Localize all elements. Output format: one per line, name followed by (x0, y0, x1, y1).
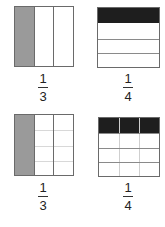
divider-line (98, 39, 159, 40)
grid-line (139, 118, 140, 176)
divider-line (53, 115, 54, 175)
divider-line (99, 148, 159, 149)
denominator: 4 (116, 90, 140, 103)
fourths-grid-box (98, 117, 160, 177)
thirds-grid-box (14, 114, 74, 176)
shaded-fourth (99, 118, 159, 133)
fourths-strip-box (97, 7, 160, 68)
grid-line (119, 118, 120, 176)
fraction-bar (123, 87, 133, 88)
divider-line (99, 162, 159, 163)
denominator: 3 (31, 90, 55, 103)
fraction-label: 1 3 (31, 181, 55, 212)
numerator: 1 (116, 72, 140, 85)
numerator: 1 (31, 72, 55, 85)
divider-line (34, 7, 35, 66)
divider-line (98, 53, 159, 54)
thirds-strip-box (14, 6, 74, 67)
fraction-bar (38, 87, 48, 88)
fraction-label: 1 4 (116, 72, 140, 103)
fraction-label: 1 3 (31, 72, 55, 103)
numerator: 1 (31, 181, 55, 194)
denominator: 3 (31, 199, 55, 212)
divider-line (53, 7, 54, 66)
shaded-third (15, 7, 35, 66)
fraction-bar (123, 196, 133, 197)
fraction-bar (38, 196, 48, 197)
shaded-fourth (98, 8, 159, 23)
numerator: 1 (116, 181, 140, 194)
shaded-third (15, 115, 35, 175)
divider-line (99, 133, 159, 134)
fraction-label: 1 4 (116, 181, 140, 212)
denominator: 4 (116, 199, 140, 212)
divider-line (34, 115, 35, 175)
